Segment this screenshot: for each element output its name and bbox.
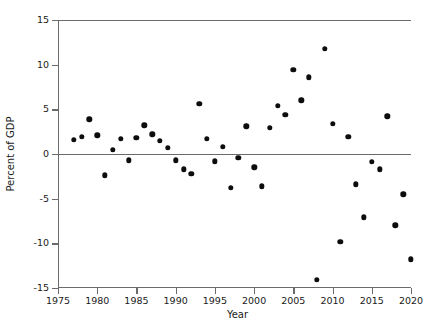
data-point — [338, 239, 343, 244]
x-axis-tick-label: 2000 — [242, 296, 266, 306]
x-axis-tick-label: 1985 — [124, 296, 148, 306]
y-axis-tick-label: -5 — [40, 194, 49, 204]
data-point — [408, 257, 413, 262]
x-axis-tick — [333, 288, 334, 294]
data-point — [393, 223, 398, 228]
x-axis-tick-label: 1990 — [164, 296, 188, 306]
zero-reference-line — [58, 154, 411, 155]
data-point — [377, 166, 382, 171]
x-axis-tick — [293, 288, 294, 294]
data-point — [126, 158, 131, 163]
data-point — [181, 166, 186, 171]
data-point — [220, 144, 225, 149]
data-point — [291, 67, 296, 72]
data-point — [346, 134, 351, 139]
plot-data-area — [58, 20, 411, 288]
data-point — [212, 158, 217, 163]
data-point — [173, 158, 178, 163]
data-point — [330, 121, 335, 126]
x-axis-title: Year — [227, 309, 248, 320]
data-point — [196, 101, 201, 106]
x-axis-tick-label: 2010 — [320, 296, 344, 306]
data-point — [353, 182, 358, 187]
x-axis-tick — [176, 288, 177, 294]
data-point — [142, 123, 147, 128]
x-axis-title-wrap: Year — [0, 309, 435, 320]
data-point — [165, 145, 170, 150]
data-point — [369, 159, 374, 164]
x-axis-tick — [215, 288, 216, 294]
x-axis-tick-label: 2020 — [399, 296, 423, 306]
data-point — [71, 137, 76, 142]
data-point — [95, 133, 100, 138]
x-axis-tick-label: 1980 — [85, 296, 109, 306]
data-point — [228, 185, 233, 190]
data-point — [236, 155, 241, 160]
y-axis-title: Percent of GDP — [5, 116, 16, 191]
x-axis-tick — [372, 288, 373, 294]
x-axis-tick-label: 1995 — [203, 296, 227, 306]
data-point — [314, 277, 319, 282]
y-axis-tick-label: 5 — [43, 105, 49, 115]
data-point — [259, 183, 264, 188]
x-axis-tick — [97, 288, 98, 294]
x-axis-tick-label: 1975 — [46, 296, 70, 306]
data-point — [204, 136, 209, 141]
x-axis-tick-label: 2015 — [360, 296, 384, 306]
data-point — [322, 46, 327, 51]
x-axis-tick — [58, 288, 59, 294]
x-axis-tick — [411, 288, 412, 294]
data-point — [267, 125, 272, 130]
x-axis-tick — [254, 288, 255, 294]
data-point — [306, 74, 311, 79]
data-point — [275, 103, 280, 108]
y-axis-tick-label: 0 — [43, 149, 49, 159]
data-point — [251, 165, 256, 170]
data-point — [87, 116, 92, 121]
x-axis-tick-label: 2005 — [281, 296, 305, 306]
data-point — [244, 124, 249, 129]
data-point — [298, 98, 303, 103]
y-axis-tick-label: -10 — [33, 239, 49, 249]
data-point — [385, 114, 390, 119]
data-point — [283, 112, 288, 117]
data-point — [149, 132, 154, 137]
data-point — [102, 173, 107, 178]
data-point — [157, 138, 162, 143]
y-axis-tick-label: 10 — [37, 60, 49, 70]
y-axis-tick-label: 15 — [37, 15, 49, 25]
y-axis-tick-label: -15 — [33, 283, 49, 293]
data-point — [134, 135, 139, 140]
x-axis-tick — [136, 288, 137, 294]
data-point — [400, 191, 405, 196]
data-point — [361, 215, 366, 220]
data-point — [79, 134, 84, 139]
scatter-chart-figure: -15-10-5051015 1975198019851990199520002… — [0, 0, 435, 330]
data-point — [189, 171, 194, 176]
data-point — [110, 147, 115, 152]
data-point — [118, 136, 123, 141]
